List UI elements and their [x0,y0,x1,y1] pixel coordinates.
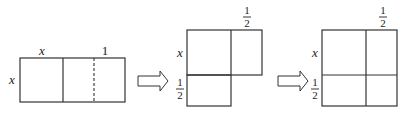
svg-text:2: 2 [177,89,183,101]
right-arrow-icon [138,71,168,91]
label-top-one: 1 [102,43,109,58]
outer-rectangle [20,58,125,102]
figure-1-rectangle: x 1 x [8,43,125,102]
bottom-rectangle [187,75,231,106]
label-top-half: 1 2 [243,4,251,29]
completing-the-square-diagram: x 1 x 1 2 x 1 2 1 2 [0,0,409,115]
label-side-x: x [311,45,318,60]
label-top-half: 1 2 [379,4,387,29]
svg-text:2: 2 [312,89,318,101]
figure-2-split-square: 1 2 x 1 2 [176,4,262,106]
svg-text:1: 1 [244,4,250,16]
svg-text:1: 1 [312,76,318,88]
outer-square [322,30,397,106]
label-side-half: 1 2 [176,76,184,101]
svg-text:2: 2 [244,17,250,29]
label-side-x: x [8,72,15,87]
label-top-x: x [38,43,45,58]
label-side-half: 1 2 [311,76,319,101]
svg-text:2: 2 [380,17,386,29]
svg-text:1: 1 [177,76,183,88]
top-rectangle [187,30,262,75]
label-side-x: x [176,45,183,60]
svg-text:1: 1 [380,4,386,16]
right-arrow-icon [278,71,308,91]
figure-3-completed-square: 1 2 x 1 2 [311,4,397,106]
